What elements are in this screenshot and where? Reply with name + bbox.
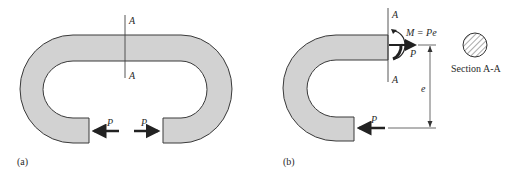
dimension-arrowhead-top bbox=[428, 46, 433, 52]
panel-a: A A P P (a) bbox=[17, 15, 232, 168]
section-view: Section A-A bbox=[451, 33, 501, 74]
section-view-label: Section A-A bbox=[451, 63, 501, 74]
section-label-top-a: A bbox=[128, 15, 136, 26]
dimension-arrowhead-bottom bbox=[428, 121, 433, 127]
caption-b: (b) bbox=[283, 156, 295, 168]
link-body-a bbox=[20, 35, 232, 143]
force-label-top-b: P bbox=[409, 48, 416, 59]
eccentricity-label-b: e bbox=[421, 83, 426, 94]
caption-a: (a) bbox=[17, 156, 28, 168]
force-label-right-a: P bbox=[140, 117, 147, 128]
diagram-canvas: A A P P (a) A A M = Pe P e P (b) bbox=[0, 0, 518, 170]
moment-label-b: M = Pe bbox=[405, 27, 437, 38]
section-circle bbox=[463, 33, 487, 57]
force-label-left-a: P bbox=[106, 117, 113, 128]
section-label-bottom-a: A bbox=[128, 70, 136, 81]
force-label-bottom-b: P bbox=[370, 114, 377, 125]
section-label-bottom-b: A bbox=[391, 74, 399, 85]
panel-b: A A M = Pe P e P (b) bbox=[283, 8, 437, 168]
link-body-b bbox=[283, 35, 388, 141]
section-label-top-b: A bbox=[391, 9, 399, 20]
